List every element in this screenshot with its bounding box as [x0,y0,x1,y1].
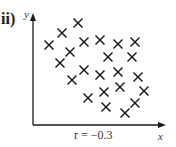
cross-marker-icon [114,68,123,77]
cross-marker-icon [128,53,137,62]
cross-marker-icon [45,41,54,50]
cross-marker-icon [131,38,140,47]
cross-marker-icon [114,40,123,49]
cross-marker-icon [121,109,130,118]
data-points [45,19,149,118]
cross-marker-icon [66,48,75,57]
cross-marker-icon [100,88,109,97]
cross-marker-icon [116,83,125,92]
cross-marker-icon [80,38,89,47]
correlation-annotation: r = −0.3 [74,128,113,142]
cross-marker-icon [74,19,83,28]
cross-marker-icon [84,94,93,103]
cross-marker-icon [96,36,105,45]
cross-marker-icon [68,76,77,85]
y-axis-arrow-icon [30,13,36,21]
scatter-plot: y x r = −0.3 [0,0,176,147]
cross-marker-icon [104,53,113,62]
cross-marker-icon [102,103,111,112]
x-axis-arrow-icon [158,122,166,128]
cross-marker-icon [96,71,105,80]
cross-marker-icon [134,73,143,82]
y-axis-label: y [23,8,29,20]
cross-marker-icon [58,29,67,38]
x-axis-label: x [157,130,163,142]
cross-marker-icon [56,59,65,68]
y-axis [30,13,36,125]
cross-marker-icon [80,66,89,75]
cross-marker-icon [140,87,149,96]
cross-marker-icon [131,99,140,108]
